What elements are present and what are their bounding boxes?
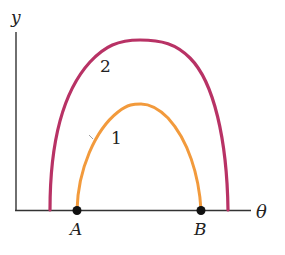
trajectory-diagram: y θ A B 2 1	[0, 0, 285, 255]
curve-1	[77, 104, 201, 210]
y-axis-label: y	[10, 7, 21, 27]
point-b	[197, 206, 206, 215]
x-axis-label: θ	[256, 201, 267, 222]
curve-2-label: 2	[100, 56, 111, 76]
point-a	[73, 206, 82, 215]
curve-1-label: 1	[111, 128, 122, 148]
curve-2	[50, 40, 228, 210]
tick-mark	[89, 135, 93, 139]
point-b-label: B	[193, 219, 207, 239]
point-a-label: A	[68, 219, 82, 239]
